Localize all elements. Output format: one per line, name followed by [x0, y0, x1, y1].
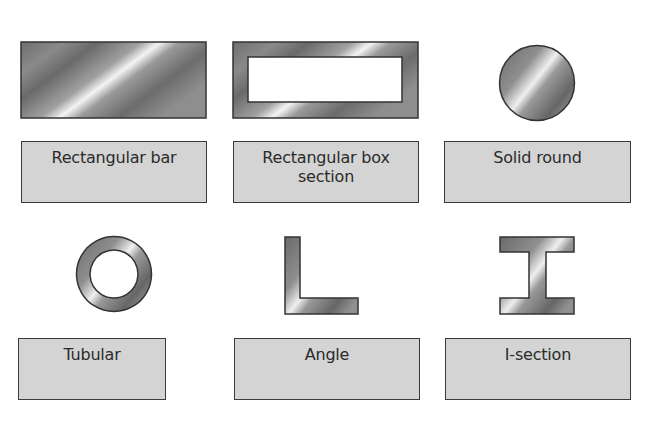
label-text: Tubular [63, 345, 120, 364]
label-text-line2: section [298, 167, 354, 186]
rectangular-box-section-shape [232, 41, 420, 120]
label-text: Solid round [493, 148, 581, 167]
tubular-shape [75, 235, 155, 315]
rectangular-bar-shape [20, 41, 208, 120]
solid-round-label: Solid round [444, 141, 631, 203]
solid-round-shape [498, 44, 578, 124]
label-text-line1: Rectangular box [262, 148, 389, 167]
label-text: Rectangular bar [51, 148, 176, 167]
label-text: Angle [305, 345, 350, 364]
tubular-label: Tubular [18, 338, 166, 400]
rectangular-bar-label: Rectangular bar [21, 141, 207, 203]
i-section-label: I-section [445, 338, 631, 400]
rectangular-box-section-label: Rectangular box section [233, 141, 419, 203]
i-section-shape [499, 236, 577, 316]
angle-shape [284, 236, 361, 316]
label-text: I-section [505, 345, 571, 364]
angle-label: Angle [234, 338, 420, 400]
